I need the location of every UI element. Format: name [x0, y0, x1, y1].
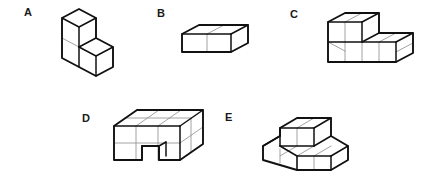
- figure-d-svg: [108, 104, 216, 178]
- figure-b-shape: [178, 18, 252, 68]
- figure-b-svg: [178, 18, 252, 68]
- figure-e-svg: [252, 110, 348, 178]
- figure-c-svg: [310, 4, 420, 80]
- figure-label-a: A: [24, 7, 32, 18]
- figure-label-b: B: [157, 8, 165, 19]
- figure-label-e: E: [225, 112, 233, 123]
- figure-c-shape: [310, 4, 420, 80]
- figure-a-svg: [44, 4, 126, 80]
- figure-d-shape: [108, 104, 216, 178]
- figure-label-c: C: [290, 9, 298, 20]
- figure-label-d: D: [82, 113, 90, 124]
- figure-a-shape: [44, 4, 126, 80]
- figure-e-shape: [252, 110, 348, 178]
